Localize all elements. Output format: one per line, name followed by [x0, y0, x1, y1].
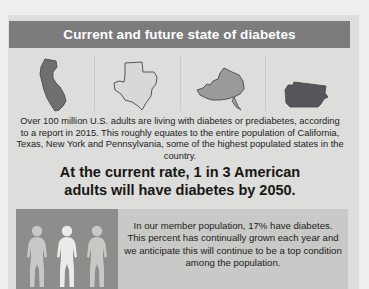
content-area: Current and future state of diabetes — [8, 15, 359, 289]
state-cell-pennsylvania — [265, 51, 350, 113]
state-cell-texas — [94, 51, 179, 113]
member-population-panel: In our member population, 17% have diabe… — [16, 209, 348, 289]
california-state-shape — [35, 58, 69, 112]
person-figure-icon-2 — [54, 223, 80, 289]
headline-line-2: adults will have diabetes by 2050. — [20, 181, 340, 199]
member-population-text-block: In our member population, 17% have diabe… — [118, 209, 348, 289]
page-margin-top — [0, 0, 369, 15]
state-shapes-strip — [9, 51, 350, 113]
page-margin-right — [359, 0, 369, 289]
page-margin-left — [0, 0, 8, 289]
person-figure-icon-1 — [24, 223, 50, 289]
state-cell-new-york — [180, 51, 265, 113]
human-figures-graphic — [16, 209, 118, 289]
texas-state-shape — [111, 59, 163, 112]
new-york-state-shape — [194, 66, 250, 112]
page-title: Current and future state of diabetes — [63, 27, 295, 42]
member-population-paragraph: In our member population, 17% have diabe… — [124, 220, 342, 269]
pennsylvania-state-shape — [282, 78, 332, 112]
headline-line-1: At the current rate, 1 in 3 American — [20, 163, 340, 181]
person-figure-icon-3 — [84, 223, 110, 289]
headline: At the current rate, 1 in 3 American adu… — [20, 163, 340, 199]
infographic-root: Current and future state of diabetes — [0, 0, 369, 289]
header-bar: Current and future state of diabetes — [9, 21, 350, 48]
body-paragraph: Over 100 million U.S. adults are living … — [16, 116, 344, 162]
state-cell-california — [9, 51, 94, 113]
